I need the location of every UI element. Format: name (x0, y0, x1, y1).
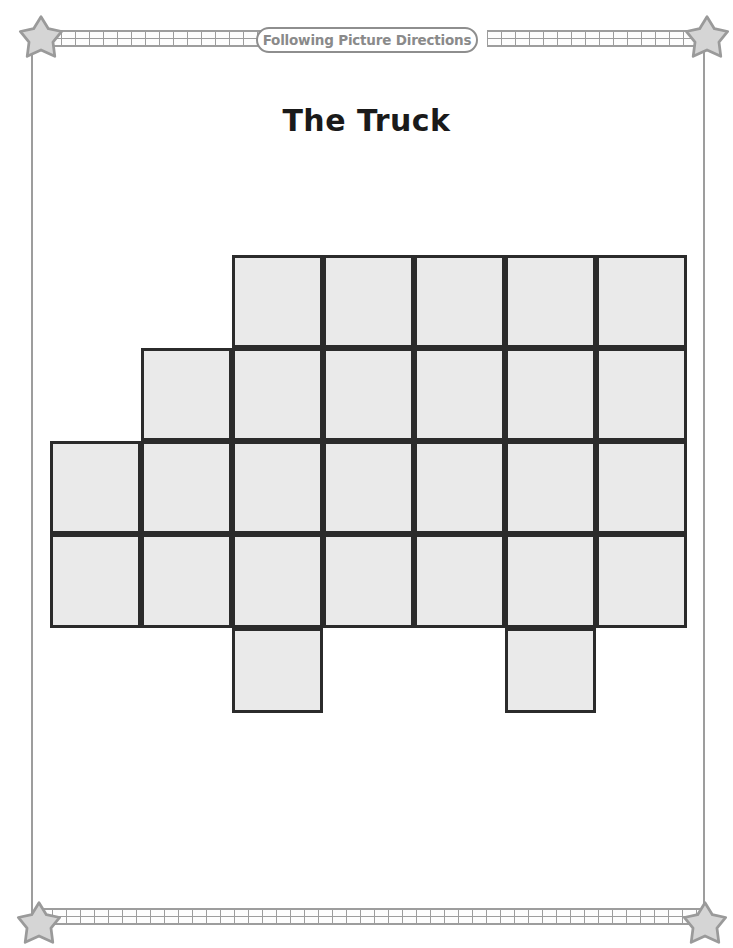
grid-cell-r4-c5[interactable] (414, 534, 505, 628)
grid-cell-r4-c7[interactable] (596, 534, 687, 628)
grid-cell-r4-c4[interactable] (323, 534, 414, 628)
grid-cell-r5-c3[interactable] (232, 628, 323, 713)
grid-cell-r2-c4[interactable] (323, 348, 414, 441)
page-frame-right-rule (703, 46, 705, 916)
header-banner: Following Picture Directions (256, 27, 478, 53)
grid-cell-r1-c6[interactable] (505, 255, 596, 348)
grid-cell-r3-c3[interactable] (232, 441, 323, 534)
grid-cell-r4-c3[interactable] (232, 534, 323, 628)
grid-cell-r1-c3[interactable] (232, 255, 323, 348)
grid-cell-r3-c7[interactable] (596, 441, 687, 534)
star-icon-top-right (684, 14, 730, 60)
grid-cell-r2-c5[interactable] (414, 348, 505, 441)
grid-cell-r1-c5[interactable] (414, 255, 505, 348)
grid-cell-r4-c1[interactable] (50, 534, 141, 628)
grid-cell-r1-c7[interactable] (596, 255, 687, 348)
grid-cell-r2-c7[interactable] (596, 348, 687, 441)
grid-cell-r3-c2[interactable] (141, 441, 232, 534)
grid-cell-r3-c1[interactable] (50, 441, 141, 534)
worksheet-page: Following Picture Directions The Truck (0, 0, 733, 948)
grid-cell-r4-c2[interactable] (141, 534, 232, 628)
grid-cell-r1-c4[interactable] (323, 255, 414, 348)
grid-cell-r2-c3[interactable] (232, 348, 323, 441)
ladder-strip-top-right (487, 30, 705, 47)
grid-cell-r3-c5[interactable] (414, 441, 505, 534)
page-title: The Truck (0, 103, 733, 138)
star-icon-bottom-left (16, 900, 62, 946)
grid-cell-r5-c6[interactable] (505, 628, 596, 713)
grid-cell-r2-c2[interactable] (141, 348, 232, 441)
star-icon-top-left (18, 14, 64, 60)
grid-cell-r2-c6[interactable] (505, 348, 596, 441)
grid-cell-r3-c6[interactable] (505, 441, 596, 534)
page-frame-left-rule (31, 46, 33, 916)
grid-cell-r4-c6[interactable] (505, 534, 596, 628)
ladder-strip-top-left (47, 30, 269, 47)
truck-grid (0, 0, 733, 948)
star-icon-bottom-right (682, 900, 728, 946)
ladder-strip-bottom (38, 908, 706, 925)
header-banner-label: Following Picture Directions (263, 32, 472, 48)
grid-cell-r3-c4[interactable] (323, 441, 414, 534)
